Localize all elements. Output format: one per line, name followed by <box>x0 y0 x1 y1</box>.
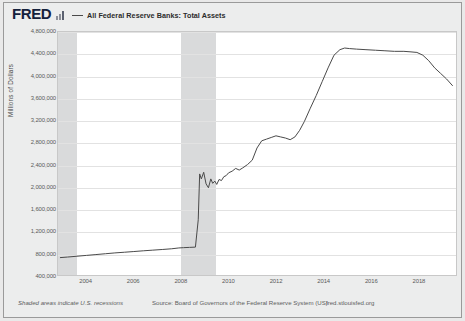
chart-legend: All Federal Reserve Banks: Total Assets <box>72 8 226 22</box>
y-tick-label: 4,800,000 <box>18 28 56 34</box>
y-tick-label: 800,000 <box>18 251 56 257</box>
legend-line-swatch <box>72 15 83 16</box>
fred-chart-card: FRED All Federal Reserve Banks: Total As… <box>3 2 462 318</box>
fred-bars-icon <box>56 11 67 20</box>
screenshot-root: FRED All Federal Reserve Banks: Total As… <box>0 0 465 321</box>
fred-logo[interactable]: FRED <box>12 6 51 22</box>
y-tick-label: 1,200,000 <box>18 228 56 234</box>
footer-url[interactable]: fred.stlouisfed.org <box>326 299 374 306</box>
x-tick-label: 2010 <box>222 278 235 284</box>
y-tick-label: 2,000,000 <box>18 184 56 190</box>
y-tick-label: 3,200,000 <box>18 117 56 123</box>
x-tick-label: 2012 <box>270 278 283 284</box>
y-axis-title: Millions of Dollars <box>7 27 14 117</box>
x-tick-label: 2006 <box>127 278 140 284</box>
y-axis-tick-labels: 4,800,0004,400,0004,000,0003,600,0003,20… <box>18 25 56 275</box>
y-tick-label: 4,400,000 <box>18 50 56 56</box>
footer-recession-note: Shaded areas indicate U.S. recessions <box>18 299 123 306</box>
x-tick-label: 2008 <box>174 278 187 284</box>
x-tick-label: 2018 <box>413 278 426 284</box>
x-tick-label: 2014 <box>317 278 330 284</box>
x-tick-label: 2004 <box>79 278 92 284</box>
x-tick-label: 2016 <box>365 278 378 284</box>
y-tick-label: 2,400,000 <box>18 162 56 168</box>
footer-source: Source: Board of Governors of the Federa… <box>152 299 328 306</box>
series-line-all-federal-reserve-banks-total-assets <box>58 32 456 275</box>
chart-header: FRED All Federal Reserve Banks: Total As… <box>4 3 461 27</box>
y-tick-label: 2,800,000 <box>18 139 56 145</box>
chart-footer: Shaded areas indicate U.S. recessions So… <box>4 299 461 313</box>
x-axis-tick-labels: 20042006200820102012201420162018 <box>57 278 457 290</box>
legend-series-label: All Federal Reserve Banks: Total Assets <box>87 11 226 20</box>
y-tick-label: 1,600,000 <box>18 206 56 212</box>
y-tick-label: 3,600,000 <box>18 95 56 101</box>
plot-area: Millions of Dollars 4,800,0004,400,0004,… <box>4 25 463 291</box>
y-tick-label: 4,000,000 <box>18 73 56 79</box>
y-tick-label: 400,000 <box>18 273 56 279</box>
plot-canvas <box>57 31 457 276</box>
